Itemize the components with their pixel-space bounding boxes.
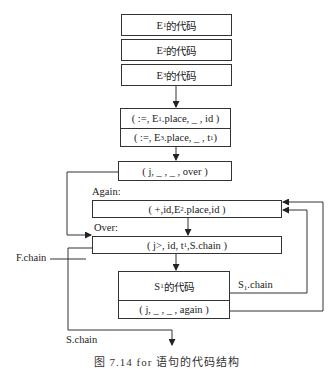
over-compare-quad: ( j>, id, t1,S.chain ) bbox=[92, 236, 282, 254]
f-chain-label: F.chain bbox=[16, 252, 46, 263]
again-pre: ( +,id,E bbox=[148, 204, 180, 215]
e1-code-block: E1的代码 bbox=[121, 14, 232, 36]
s1-chain-label: S1.chain bbox=[238, 279, 273, 290]
e3-prefix: E bbox=[157, 70, 163, 81]
e2-code-block: E2的代码 bbox=[121, 39, 232, 61]
s1-chain-suffix: .chain bbox=[247, 279, 272, 290]
over-label: Over: bbox=[94, 222, 118, 233]
e1-prefix: E bbox=[157, 20, 163, 31]
e3-suffix: 的代码 bbox=[166, 68, 196, 83]
jump-again-text: ( j, _ , _ , again ) bbox=[139, 304, 208, 315]
assignment-block: ( :=, E1.place, _ , id ) ( :=, E3.place,… bbox=[120, 108, 231, 147]
assign-id-quad: ( :=, E1.place, _ , id ) bbox=[121, 109, 230, 128]
assign2-pre: ( :=, E bbox=[134, 132, 161, 143]
s1-code-block: S1的代码 ( j, _ , _ , again ) bbox=[118, 271, 230, 319]
e2-suffix: 的代码 bbox=[166, 43, 196, 58]
jump-over-quad: ( j, _ , _ , over ) bbox=[118, 161, 232, 181]
assign-t1-quad: ( :=, E3.place, _ , t1 ) bbox=[121, 128, 230, 146]
s1-code-cell: S1的代码 bbox=[119, 272, 229, 300]
jump-again-quad: ( j, _ , _ , again ) bbox=[119, 300, 229, 318]
jump-over-text: ( j, _ , _ , over ) bbox=[142, 166, 207, 177]
assign2-post2: ) bbox=[214, 132, 218, 143]
figure-caption: 图 7.14 for 语句的代码结构 bbox=[0, 353, 334, 369]
s-chain-label: S.chain bbox=[66, 334, 97, 345]
again-post: .place,id ) bbox=[184, 204, 226, 215]
e1-suffix: 的代码 bbox=[166, 18, 196, 33]
e2-prefix: E bbox=[157, 45, 163, 56]
over-post: ,S.chain ) bbox=[187, 240, 227, 251]
again-increment-quad: ( +,id,E2.place,id ) bbox=[92, 200, 282, 218]
assign2-post: .place, _ , t bbox=[164, 132, 210, 143]
s1-suffix: 的代码 bbox=[164, 279, 194, 294]
over-pre: ( j>, id, t bbox=[147, 240, 184, 251]
assign1-post: .place, _ , id ) bbox=[162, 113, 219, 124]
e3-code-block: E3的代码 bbox=[121, 64, 232, 86]
assign1-pre: ( :=, E bbox=[132, 113, 159, 124]
again-label: Again: bbox=[92, 186, 121, 197]
